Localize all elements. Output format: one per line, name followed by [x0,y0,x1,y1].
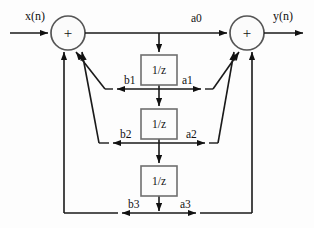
input-branch: x(n) [10,9,48,33]
left-adder: + [51,16,85,50]
a1-label: a1 [182,74,193,86]
b2-feedback-diagonal [82,52,99,143]
output-label: y(n) [273,9,293,23]
a0-branch: a0 [85,12,227,33]
a1-feedforward-diagonal [213,52,239,89]
input-label: x(n) [25,9,45,23]
delay-block-3: 1/z [141,166,177,196]
right-adder-plus: + [243,25,251,41]
a2-label: a2 [186,128,197,140]
b3-label: b3 [128,198,140,210]
delay-box-1-label: 1/z [152,64,166,76]
right-adder: + [230,16,264,50]
left-adder-plus: + [64,25,72,41]
signal-flow-diagram: x(n) + a0 + y(n) [0,0,314,228]
delay-block-1: 1/z [141,55,177,85]
b1-feedback-diagonal [76,52,105,89]
a0-label: a0 [191,12,202,24]
flow-graph-canvas: x(n) + a0 + y(n) [0,0,314,228]
a2-feedforward-diagonal [218,52,234,143]
delay-box-3-label: 1/z [152,175,166,187]
delay-box-2-label: 1/z [152,118,166,130]
a3-label: a3 [180,198,191,210]
b2-label: b2 [120,128,132,140]
delay-block-2: 1/z [141,109,177,139]
output-branch: y(n) [264,9,303,33]
b1-label: b1 [124,74,136,86]
